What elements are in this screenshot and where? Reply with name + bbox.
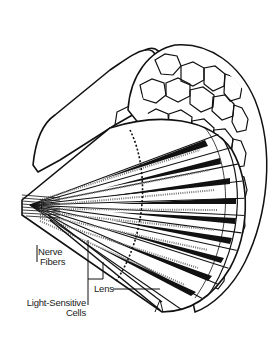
label-light-sensitive-cells: Light-Sensitive Cells [26, 298, 86, 318]
label-lens: Lens [94, 284, 114, 294]
label-nerve-fibers: Nerve Fibers [38, 247, 65, 267]
compound-eye-diagram [0, 0, 279, 340]
